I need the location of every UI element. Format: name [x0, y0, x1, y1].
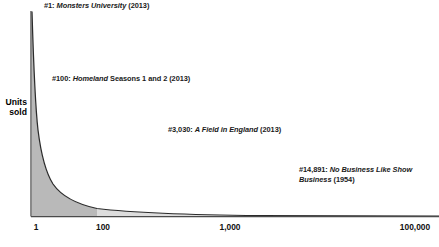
x-tick-label-1: 1 [34, 222, 39, 232]
x-tick-label-100: 100 [96, 222, 110, 232]
annotation-suffix: (2013) [260, 125, 281, 134]
annotation-suffix: (2013) [128, 1, 149, 10]
x-tick-label-1000: 1,000 [220, 222, 241, 232]
annotation-suffix: Seasons 1 and 2 (2013) [110, 74, 190, 83]
annotation-rank-label: #14,891: [299, 165, 328, 174]
annotation-no-business-like-show-business: #14,891: No Business Like Show Business … [299, 165, 423, 185]
long-tail-chart: Units sold #1: Monsters University (2013… [0, 0, 439, 247]
annotation-title: Homeland [73, 74, 108, 83]
head-region-fill [32, 12, 439, 217]
annotation-title: A Field in England [195, 125, 258, 134]
chart-plot-area [0, 0, 439, 247]
y-axis-label-line-1: Units [0, 97, 27, 107]
tail-region-fill [32, 12, 439, 217]
annotation-rank-label: #1: [44, 1, 55, 10]
annotation-monsters-university: #1: Monsters University (2013) [44, 1, 149, 11]
annotation-rank-label: #100: [52, 74, 71, 83]
x-tick-label-100000: 100,000 [400, 222, 430, 232]
annotation-homeland: #100: Homeland Seasons 1 and 2 (2013) [52, 74, 190, 84]
y-axis-label-line-2: sold [0, 107, 27, 117]
y-axis-label: Units sold [0, 97, 27, 118]
annotation-a-field-in-england: #3,030: A Field in England (2013) [168, 125, 281, 135]
annotation-rank-label: #3,030: [168, 125, 193, 134]
annotation-suffix: (1954) [333, 175, 354, 184]
annotation-title: Monsters University [57, 1, 127, 10]
